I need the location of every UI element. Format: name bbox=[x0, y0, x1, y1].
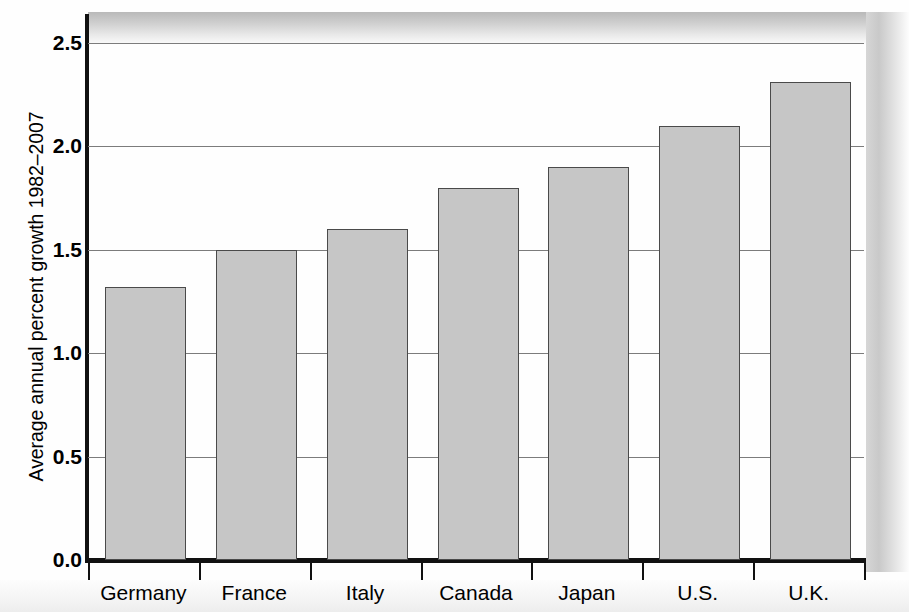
x-axis-tick bbox=[531, 563, 533, 580]
x-axis-tick bbox=[199, 563, 201, 580]
y-tick-label: 0.0 bbox=[20, 549, 82, 570]
x-tick-label-france: France bbox=[199, 582, 310, 603]
plot-area bbox=[88, 43, 864, 560]
x-tick-label-u-k: U.K. bbox=[753, 582, 864, 603]
y-tick-label: 1.0 bbox=[20, 342, 82, 363]
x-axis-tick-end bbox=[88, 563, 90, 580]
bar-germany[interactable] bbox=[105, 287, 186, 560]
y-tick-label: 0.5 bbox=[20, 446, 82, 467]
bars-layer bbox=[88, 43, 864, 560]
x-axis-tick bbox=[753, 563, 755, 580]
y-tick-label: 2.5 bbox=[20, 32, 82, 53]
x-axis-tick bbox=[642, 563, 644, 580]
x-axis-tick bbox=[421, 563, 423, 580]
x-axis-tick-end bbox=[864, 563, 866, 580]
bar-u-s[interactable] bbox=[659, 126, 740, 560]
y-tick-label: 2.0 bbox=[20, 135, 82, 156]
scan-shadow-top bbox=[88, 12, 884, 44]
bar-italy[interactable] bbox=[327, 229, 408, 560]
x-tick-label-japan: Japan bbox=[531, 582, 642, 603]
bar-france[interactable] bbox=[216, 250, 297, 560]
x-tick-label-italy: Italy bbox=[310, 582, 421, 603]
y-tick-label: 1.5 bbox=[20, 239, 82, 260]
scan-shadow-right bbox=[866, 12, 909, 572]
x-axis-tick bbox=[310, 563, 312, 580]
bar-u-k[interactable] bbox=[770, 82, 851, 560]
bar-canada[interactable] bbox=[438, 188, 519, 560]
x-tick-label-germany: Germany bbox=[88, 582, 199, 603]
x-tick-label-canada: Canada bbox=[421, 582, 532, 603]
y-axis-tick-labels: 0.00.51.01.52.02.5 bbox=[16, 0, 82, 612]
x-tick-label-u-s: U.S. bbox=[642, 582, 753, 603]
bar-japan[interactable] bbox=[548, 167, 629, 560]
bar-chart-figure: Average annual percent growth 1982–2007 … bbox=[0, 0, 909, 612]
